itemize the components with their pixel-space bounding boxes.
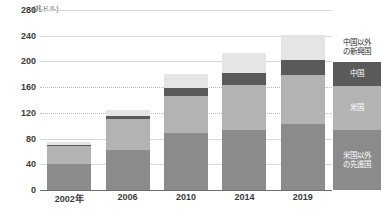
bar-segment-米国以外の先進国	[281, 124, 325, 190]
bar-2014	[222, 53, 266, 190]
bar-segment-中国	[164, 88, 208, 96]
chart-legend: 中国以外 の新興国中国米国米国以外 の先進国	[333, 10, 381, 190]
bar-2006	[106, 110, 150, 190]
legend-label-0: 中国以外 の新興国	[333, 38, 381, 57]
y-tick-label-280: 280	[2, 5, 36, 15]
plot-area	[40, 10, 332, 190]
y-tick-label-240: 240	[2, 31, 36, 41]
bar-segment-米国	[106, 119, 150, 150]
bar-segment-中国	[281, 60, 325, 75]
bar-segment-米国以外の先進国	[222, 130, 266, 190]
y-tick-label-0: 0	[2, 185, 36, 195]
bar-2002年	[47, 142, 91, 190]
bar-segment-米国	[47, 146, 91, 164]
bar-segment-中国以外の新興国	[222, 53, 266, 73]
legend-label-1: 中国	[333, 69, 381, 79]
bar-segment-米国	[281, 75, 325, 124]
legend-label-2: 米国	[333, 103, 381, 113]
gridline-0	[40, 190, 332, 191]
gridline-280	[40, 10, 332, 11]
bar-segment-米国以外の先進国	[106, 150, 150, 191]
y-tick-label-40: 40	[2, 159, 36, 169]
bar-2010	[164, 74, 208, 190]
y-tick-label-80: 80	[2, 134, 36, 144]
x-tick-label-2019: 2019	[268, 192, 338, 202]
x-axis-tick-labels: 2002年2006201020142019	[40, 192, 332, 210]
bar-segment-米国以外の先進国	[47, 164, 91, 190]
y-axis-tick-labels: 04080120160200240280	[0, 10, 36, 190]
y-tick-label-160: 160	[2, 82, 36, 92]
bar-segment-中国	[222, 73, 266, 85]
legend-label-3: 米国以外 の先進国	[333, 151, 381, 170]
bar-segment-米国	[222, 85, 266, 130]
y-tick-label-120: 120	[2, 108, 36, 118]
y-tick-label-200: 200	[2, 56, 36, 66]
bar-2019	[281, 35, 325, 190]
bar-segment-米国	[164, 96, 208, 134]
bar-segment-米国以外の先進国	[164, 133, 208, 190]
bar-segment-中国以外の新興国	[164, 74, 208, 88]
bar-segment-中国以外の新興国	[281, 35, 325, 60]
stacked-bar-chart: (兆ドル) 04080120160200240280 2002年20062010…	[0, 0, 381, 215]
